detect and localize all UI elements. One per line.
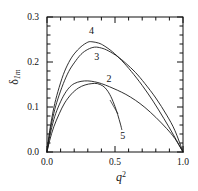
figure-container: 0.3 0.2 0.1 0.0 0.0 0.5 1.0 δ1m q2 4 3 2… (0, 0, 198, 191)
y-axis-label-subscript: 1m (13, 69, 22, 79)
axes-frame (47, 17, 183, 152)
curve-label-5: 5 (120, 131, 125, 141)
y-tick-label-0.3: 0.3 (15, 13, 39, 23)
plot-frame (47, 17, 183, 152)
x-axis-label: q2 (116, 171, 126, 183)
chart-plot (0, 0, 198, 191)
y-tick-label-0.0: 0.0 (15, 148, 39, 158)
y-axis-label-symbol: δ (7, 79, 21, 85)
x-tick-label-1.0: 1.0 (170, 158, 196, 168)
y-axis-label: δ1m (8, 50, 22, 104)
x-tick-label-0.0: 0.0 (34, 158, 60, 168)
curve-label-3: 3 (94, 52, 99, 62)
x-tick-label-0.5: 0.5 (102, 158, 128, 168)
curve-label-2: 2 (107, 74, 112, 84)
curve-label-4: 4 (89, 26, 94, 36)
y-tick-label-0.1: 0.1 (15, 103, 39, 113)
x-axis-label-exponent: 2 (122, 170, 126, 179)
